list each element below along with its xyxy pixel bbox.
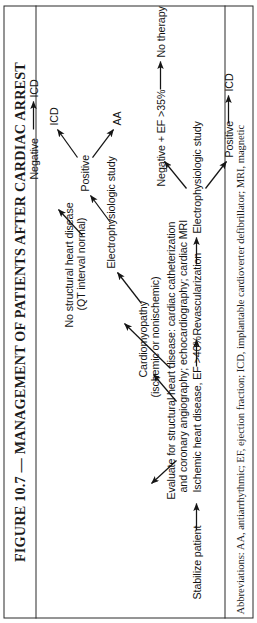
node-stabilize-patient: Stabilize patient [190,525,202,599]
node-aa: AA [110,111,122,125]
node-eps-cm-positive: Positive [78,154,90,191]
figure-abbreviations: Abbreviations: AA, antiarrhythmic; EF, e… [227,0,251,614]
abbreviations-divider-rule [224,5,225,618]
rotated-page-wrapper: FIGURE 10.7 — MANAGEMENT OF PATIENTS AFT… [0,0,257,623]
node-eps-cardiomyopathy: Electrophysiologic study [104,156,116,268]
node-no-therapy: No therapy [154,6,166,57]
node-cardiomyopathy-line2: (ischemic or nonischemic) [148,276,160,397]
node-icd-cm-negative: ICD [27,79,39,97]
node-icd-cm-positive: ICD [47,107,59,125]
node-evaluate-line2: and coronary angiography; echocardiograp… [176,219,188,492]
node-no-structural-line1: No structural heart disease [62,202,74,327]
node-revascularization: Revascularization [190,252,202,335]
node-cardiomyopathy-line1: Cardiomyopathy [136,301,148,377]
figure-title-text: FIGURE 10.7 — MANAGEMENT OF PATIENTS AFT… [11,62,28,562]
node-evaluate-line1: Evaluate for structural heart disease: c… [164,221,176,499]
figure-canvas: FIGURE 10.7 — MANAGEMENT OF PATIENTS AFT… [0,0,257,623]
abbreviations-text: Abbreviations: AA, antiarrhythmic; EF, e… [234,124,245,614]
node-eps-ischemic-negative: Negative + EF >35% [154,89,166,186]
node-ischemic-heart-disease: Ischemic heart disease, EF >40% [190,336,202,492]
figure-border [3,5,253,618]
node-eps-cm-negative: Negative [27,138,39,179]
node-no-structural-line2: (QT interval normal) [74,217,86,310]
node-eps-ischemic: Electrophysiologic study [190,121,202,233]
